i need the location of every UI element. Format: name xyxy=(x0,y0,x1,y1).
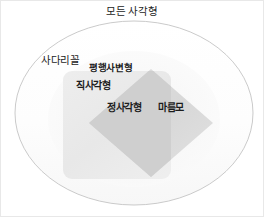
label-all-quadrilaterals: 모든 사각형 xyxy=(106,6,157,17)
label-rectangle: 직사각형 xyxy=(76,81,111,91)
label-rhombus: 마름모 xyxy=(158,103,184,113)
diagram-canvas: 모든 사각형 사다리꼴 평행사변형 직사각형 정사각형 마름모 xyxy=(0,0,264,217)
label-trapezoid: 사다리꼴 xyxy=(41,55,80,66)
label-square: 정사각형 xyxy=(107,103,142,113)
label-parallelogram: 평행사변형 xyxy=(89,63,133,73)
